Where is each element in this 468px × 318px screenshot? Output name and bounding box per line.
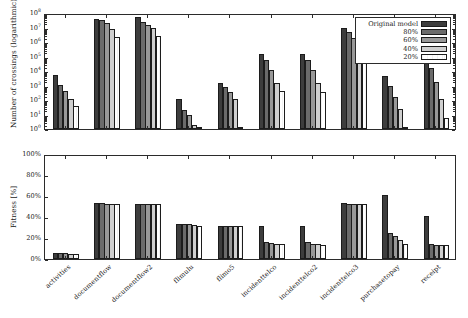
x-tick-mark <box>147 156 148 159</box>
y-minor-tick <box>453 59 455 60</box>
x-tick-mark <box>188 15 189 18</box>
y-minor-tick <box>453 120 455 121</box>
y-tick-mark <box>45 239 48 240</box>
y-tick-mark <box>45 87 48 88</box>
y-minor-tick <box>45 36 47 37</box>
y-minor-tick <box>453 53 455 54</box>
y-minor-tick <box>453 123 455 124</box>
x-tick-mark-bottom <box>229 126 230 129</box>
x-tick-mark <box>353 156 354 159</box>
y-tick-label: 40% <box>14 214 41 220</box>
y-minor-tick <box>45 47 47 48</box>
x-tick-mark-bottom <box>147 126 148 129</box>
y-minor-tick <box>453 20 455 21</box>
y-tick-mark <box>45 260 48 261</box>
x-tick-mark-bottom <box>394 126 395 129</box>
y-minor-tick <box>453 62 455 63</box>
x-tick-mark-bottom <box>353 256 354 259</box>
x-tick-mark <box>147 15 148 18</box>
y-minor-tick <box>45 18 47 19</box>
y-minor-tick <box>45 75 47 76</box>
y-tick-label: 20% <box>14 235 41 241</box>
y-minor-tick <box>45 119 47 120</box>
y-minor-tick <box>45 103 47 104</box>
y-minor-tick <box>453 34 455 35</box>
y-minor-tick <box>453 33 455 34</box>
y-minor-tick <box>453 63 455 64</box>
y-tick-mark-right <box>452 58 455 59</box>
y-minor-tick <box>45 63 47 64</box>
legend-swatch <box>421 54 447 60</box>
y-tick-mark <box>45 14 48 15</box>
y-minor-tick <box>45 94 47 95</box>
y-minor-tick <box>45 24 47 25</box>
y-minor-tick <box>453 82 455 83</box>
y-minor-tick <box>45 59 47 60</box>
crossings-y-axis-label: Number of crossings (logarithmic) <box>9 0 18 128</box>
y-tick-label: 60% <box>14 193 41 199</box>
y-minor-tick <box>453 105 455 106</box>
y-minor-tick <box>45 126 47 127</box>
x-tick-mark <box>65 156 66 159</box>
y-minor-tick <box>453 65 455 66</box>
x-tick-mark-bottom <box>271 126 272 129</box>
y-minor-tick <box>453 94 455 95</box>
y-minor-tick <box>453 17 455 18</box>
y-tick-label: 100 <box>18 126 41 132</box>
y-minor-tick <box>45 89 47 90</box>
y-minor-tick <box>45 105 47 106</box>
y-minor-tick <box>45 82 47 83</box>
x-tick-mark-bottom <box>353 126 354 129</box>
bar <box>444 118 449 129</box>
y-tick-mark <box>45 218 48 219</box>
y-minor-tick <box>45 32 47 33</box>
y-tick-mark-right <box>452 72 455 73</box>
y-minor-tick <box>453 118 455 119</box>
y-minor-tick <box>453 92 455 93</box>
legend-swatch <box>421 21 447 27</box>
bar <box>320 92 325 129</box>
y-minor-tick <box>45 111 47 112</box>
y-minor-tick <box>453 121 455 122</box>
y-minor-tick <box>453 39 455 40</box>
x-tick-mark-bottom <box>435 126 436 129</box>
x-tick-mark <box>394 156 395 159</box>
x-tick-mark <box>435 156 436 159</box>
legend-swatch <box>421 29 447 35</box>
y-minor-tick <box>45 65 47 66</box>
y-minor-tick <box>45 109 47 110</box>
y-minor-tick <box>45 39 47 40</box>
y-minor-tick <box>45 117 47 118</box>
y-tick-label: 105 <box>18 54 41 60</box>
fitness-y-axis-label: Fitness [%] <box>9 186 18 228</box>
y-minor-tick <box>453 73 455 74</box>
bar <box>279 91 284 129</box>
y-minor-tick <box>45 44 47 45</box>
y-tick-mark <box>45 72 48 73</box>
y-tick-mark <box>45 197 48 198</box>
x-tick-mark-bottom <box>271 256 272 259</box>
y-minor-tick <box>453 30 455 31</box>
y-minor-tick <box>453 126 455 127</box>
bar <box>197 226 202 259</box>
x-tick-mark-bottom <box>188 126 189 129</box>
y-tick-label: 102 <box>18 97 41 103</box>
y-minor-tick <box>45 120 47 121</box>
y-minor-tick <box>45 30 47 31</box>
bar <box>398 109 403 129</box>
y-minor-tick <box>453 44 455 45</box>
y-minor-tick <box>453 109 455 110</box>
y-minor-tick <box>45 104 47 105</box>
x-tick-mark <box>312 15 313 18</box>
legend-item: 40% <box>359 45 447 53</box>
y-minor-tick <box>45 33 47 34</box>
bar <box>279 244 284 259</box>
x-tick-mark <box>188 156 189 159</box>
x-tick-mark <box>229 156 230 159</box>
y-minor-tick <box>45 76 47 77</box>
y-minor-tick <box>45 60 47 61</box>
y-minor-tick <box>453 68 455 69</box>
bar <box>320 245 325 259</box>
y-minor-tick <box>45 15 47 16</box>
x-tick-mark <box>271 156 272 159</box>
